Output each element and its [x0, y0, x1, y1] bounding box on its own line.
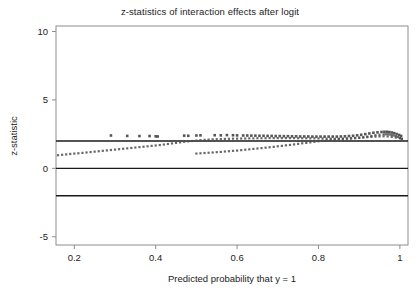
data-point — [400, 135, 403, 138]
data-point — [167, 143, 169, 145]
data-point — [301, 142, 303, 144]
data-point — [285, 144, 287, 146]
data-point — [366, 136, 368, 138]
data-point — [106, 149, 108, 151]
data-point — [326, 139, 328, 141]
data-point — [321, 140, 323, 142]
data-point — [330, 139, 332, 141]
data-point — [260, 147, 262, 149]
data-point — [289, 144, 291, 146]
data-point — [199, 134, 202, 137]
data-point — [387, 133, 389, 135]
data-point — [142, 146, 144, 148]
series-upper-band — [57, 133, 403, 156]
data-point — [203, 152, 205, 154]
data-point — [199, 152, 201, 154]
data-point — [380, 131, 383, 134]
data-point — [360, 134, 363, 137]
data-point — [364, 133, 367, 136]
data-point — [401, 138, 403, 140]
data-point — [388, 131, 391, 134]
data-point — [122, 148, 124, 150]
data-point — [386, 131, 389, 134]
data-point — [303, 135, 306, 138]
data-point — [378, 135, 380, 137]
data-point — [195, 139, 197, 141]
data-point — [387, 135, 389, 137]
data-point — [250, 134, 253, 137]
data-point — [208, 152, 210, 154]
data-point — [232, 150, 234, 152]
data-point — [350, 137, 352, 139]
data-point — [340, 135, 343, 138]
data-point — [236, 134, 239, 137]
data-point — [287, 135, 290, 138]
data-point — [338, 138, 340, 140]
data-point — [313, 141, 315, 143]
data-point — [110, 149, 112, 151]
y-tick-label: 10 — [37, 26, 48, 37]
data-point — [102, 150, 104, 152]
data-point — [269, 137, 271, 139]
data-point — [171, 142, 173, 144]
data-point — [393, 132, 396, 135]
data-point — [399, 137, 401, 139]
data-point — [110, 134, 113, 137]
chart-figure: z-statistics of interaction effects afte… — [0, 0, 420, 295]
data-point — [126, 147, 128, 149]
data-point — [323, 135, 326, 138]
axis-tick-labels: 0.20.40.60.81-50510 — [37, 26, 402, 263]
data-point — [385, 133, 387, 135]
data-point — [232, 134, 235, 137]
data-point — [126, 135, 129, 138]
data-point — [354, 137, 356, 139]
data-point — [258, 134, 261, 137]
data-point — [138, 146, 140, 148]
data-point — [224, 138, 226, 140]
data-point — [391, 136, 393, 138]
data-point — [118, 148, 120, 150]
data-point — [94, 151, 96, 153]
data-point — [370, 136, 372, 138]
data-point — [134, 146, 136, 148]
data-point — [155, 144, 157, 146]
data-point — [244, 137, 246, 139]
data-point — [77, 152, 79, 154]
data-point — [266, 135, 269, 138]
data-point — [248, 137, 250, 139]
data-point — [352, 134, 355, 137]
data-point — [346, 137, 348, 139]
data-point — [279, 135, 282, 138]
data-point — [187, 134, 190, 137]
data-point — [277, 145, 279, 147]
data-point — [335, 135, 338, 138]
data-point — [331, 135, 334, 138]
data-point — [391, 134, 393, 136]
data-point — [156, 135, 159, 138]
data-point — [319, 135, 322, 138]
data-point — [236, 138, 238, 140]
data-point — [297, 143, 299, 145]
data-point — [151, 145, 153, 147]
data-point — [382, 133, 384, 135]
data-point — [311, 135, 314, 138]
data-point — [281, 145, 283, 147]
data-point — [358, 137, 360, 139]
data-point — [262, 134, 265, 137]
data-point — [264, 137, 266, 139]
data-point — [383, 131, 386, 134]
data-point — [317, 140, 319, 142]
data-point — [334, 138, 336, 140]
y-axis-title: z-statistic — [8, 116, 19, 156]
data-point — [342, 138, 344, 140]
data-point — [159, 144, 161, 146]
data-point — [130, 147, 132, 149]
data-point — [216, 138, 218, 140]
data-point — [179, 141, 181, 143]
data-point — [244, 149, 246, 151]
data-point — [395, 136, 397, 138]
data-point — [203, 139, 205, 141]
data-point — [376, 131, 379, 134]
data-point — [65, 153, 67, 155]
data-point — [362, 136, 364, 138]
